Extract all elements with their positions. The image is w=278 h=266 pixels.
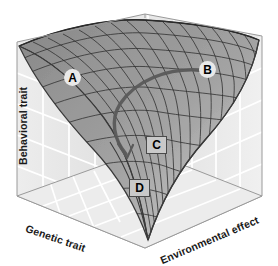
- annotation-badge-a: A: [64, 69, 81, 86]
- annotation-badge-c: C: [146, 136, 167, 154]
- annotation-badge-b: B: [199, 61, 216, 78]
- surface-plot-figure: Behavioral trait Genetic trait Environme…: [0, 0, 278, 266]
- annotation-badge-d: D: [129, 179, 150, 197]
- axis-label-behavioral-trait: Behavioral trait: [17, 80, 29, 172]
